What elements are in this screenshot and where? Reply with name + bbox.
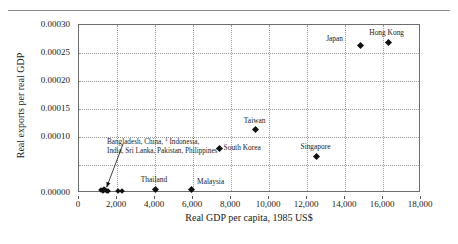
gridline-vertical <box>383 25 384 191</box>
gridline-vertical <box>269 25 270 191</box>
cluster-line1-rest: Indonesia, <box>168 138 200 146</box>
gridline-vertical <box>117 25 118 191</box>
y-axis-tick-labels: 0.000000.000100.000150.000200.000250.000… <box>0 24 74 192</box>
x-tick-label: 0 <box>76 199 81 209</box>
data-point-hong-kong[interactable] <box>385 39 392 46</box>
y-tick-label: 0.00020 <box>41 75 70 85</box>
data-point-malaysia[interactable] <box>188 186 195 193</box>
gridline-vertical <box>155 25 156 191</box>
gridline-vertical <box>231 25 232 191</box>
x-tick-label: 8,000 <box>220 199 240 209</box>
x-tick-label: 14,000 <box>332 199 357 209</box>
data-point-singapore[interactable] <box>313 153 320 160</box>
x-axis-tick-labels: 02,0004,0006,0008,00010,00012,00014,0001… <box>78 196 420 208</box>
point-label-thailand: Thailand <box>141 176 167 184</box>
plot-area: Hong KongJapanTaiwanSingaporeSouth Korea… <box>78 24 420 192</box>
cluster-annotation-line-1: Bangladesh, China, 1 Indonesia, <box>107 135 217 147</box>
x-tick-label: 4,000 <box>144 199 164 209</box>
y-tick-label: 0.00030 <box>41 19 70 29</box>
point-label-malaysia: Malaysia <box>197 178 224 186</box>
x-tick-label: 10,000 <box>256 199 281 209</box>
point-label-japan: Japan <box>326 35 343 43</box>
data-point-taiwan[interactable] <box>252 126 259 133</box>
data-point-thailand[interactable] <box>151 186 158 193</box>
header-rule <box>8 10 450 11</box>
cluster-annotation: Bangladesh, China, 1 Indonesia,India, Sr… <box>107 135 217 155</box>
x-tick-label: 12,000 <box>294 199 319 209</box>
y-tick-label: 0.00010 <box>41 131 70 141</box>
figure-container: Real exports per real GDP 0.000000.00010… <box>0 0 458 244</box>
gridline-horizontal <box>79 165 419 166</box>
point-label-south-korea: South Korea <box>224 144 261 152</box>
x-tick-label: 6,000 <box>182 199 202 209</box>
gridline-horizontal <box>79 109 419 110</box>
gridline-vertical <box>307 25 308 191</box>
cluster-line1-text: Bangladesh, China, <box>107 138 165 146</box>
x-axis-title: Real GDP per capita, 1985 US$ <box>78 212 420 223</box>
point-label-taiwan: Taiwan <box>244 117 266 125</box>
y-tick-label: 0.00000 <box>41 187 70 197</box>
x-tick-label: 2,000 <box>106 199 126 209</box>
x-tick-label: 16,000 <box>370 199 395 209</box>
cluster-annotation-line-2: India, Sri Lanka, Pakistan, Philippines <box>107 147 217 156</box>
gridline-vertical <box>193 25 194 191</box>
y-tick-label: 0.00015 <box>41 103 70 113</box>
gridline-horizontal <box>79 81 419 82</box>
data-point-japan[interactable] <box>357 42 364 49</box>
gridline-vertical <box>345 25 346 191</box>
y-tick-label: 0.00025 <box>41 47 70 57</box>
point-label-hong-kong: Hong Kong <box>369 29 404 37</box>
x-tick-label: 18,000 <box>408 199 433 209</box>
gridline-horizontal <box>79 53 419 54</box>
point-label-singapore: Singapore <box>301 143 331 151</box>
data-point-cluster-h[interactable] <box>119 188 125 194</box>
